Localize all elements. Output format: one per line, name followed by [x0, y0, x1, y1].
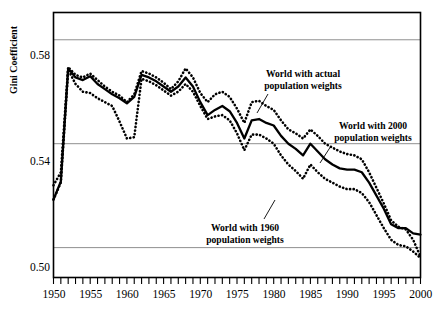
grid-lines — [54, 40, 421, 248]
plot-canvas — [0, 0, 445, 316]
plot-frame — [54, 13, 421, 278]
series-line-world-2000-weights — [54, 67, 421, 257]
series-line-world-actual-weights — [54, 68, 421, 234]
gini-coefficient-chart: Gini Coefficient 0.58 0.54 0.50 1950 195… — [0, 0, 445, 316]
x-axis-minor-ticks — [54, 278, 421, 285]
annotation-leader-lines — [257, 94, 331, 219]
